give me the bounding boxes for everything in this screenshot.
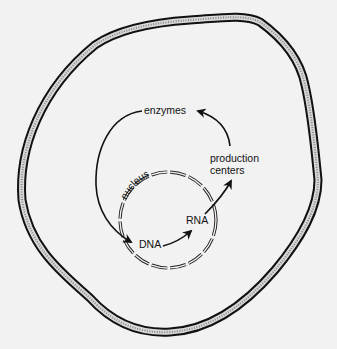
label-centers: centers — [210, 165, 244, 176]
arrow-production-to-enzymes — [198, 111, 230, 146]
label-rna: RNA — [186, 215, 208, 226]
svg-text:nucleus: nucleus — [118, 168, 151, 201]
label-enzymes: enzymes — [144, 105, 186, 116]
label-nucleus: nucleus — [118, 168, 151, 201]
arrow-dna-to-rna — [163, 231, 191, 246]
cell-membrane — [22, 17, 318, 332]
cell-diagram: nucleus — [0, 0, 337, 349]
label-production: production — [210, 153, 259, 164]
label-dna: DNA — [139, 239, 161, 250]
